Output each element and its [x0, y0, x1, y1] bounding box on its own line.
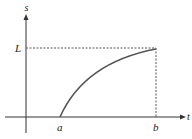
function-curve	[60, 49, 156, 117]
x-start-label: a	[57, 121, 63, 133]
y-axis-label: s	[25, 2, 29, 13]
y-level-label: L	[14, 42, 21, 54]
x-axis-label: t	[187, 111, 190, 122]
x-axis-arrow-icon	[180, 115, 186, 120]
y-axis-arrow-icon	[24, 14, 29, 20]
x-axis	[5, 115, 186, 120]
diagram-figure: t s L a b	[0, 0, 192, 139]
y-axis	[24, 14, 29, 133]
x-end-label: b	[153, 121, 159, 133]
